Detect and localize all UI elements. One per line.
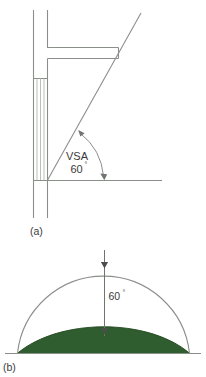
vsa-angle-value: 60 [71,163,83,175]
panel-a-diagram: VSA 60 ° (a) [0,0,206,240]
figure-root: VSA 60 ° (a) 60 ° (b) [0,0,206,377]
dome-degree-symbol: ° [123,289,126,296]
vsa-label: VSA [66,150,89,162]
panel-b-tag: (b) [3,361,16,373]
sight-line [47,13,141,181]
dome-angle-value: 60 [109,290,121,302]
panel-b-diagram: 60 ° (b) [0,240,206,377]
vsa-arc-arrowhead-lower [100,174,107,181]
dimension-arrowhead-up [101,262,108,269]
panel-a-tag: (a) [30,225,43,237]
vsa-degree-symbol: ° [85,161,88,168]
